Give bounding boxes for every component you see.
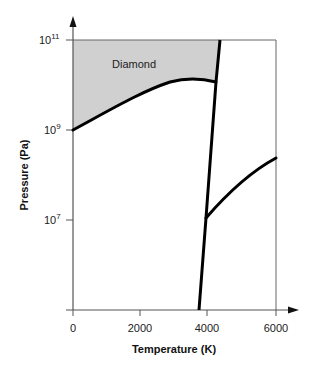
y-tick-label-11: 1011 — [39, 32, 60, 46]
x-axis-arrow-icon — [288, 307, 299, 314]
y-tick-label-9: 109 — [44, 122, 61, 136]
x-tick-label-6000: 6000 — [264, 322, 288, 334]
diamond-label: Diamond — [112, 58, 156, 70]
x-tick-label-2000: 2000 — [128, 322, 152, 334]
phase-diagram: 1011 109 107 0 2000 4000 6000 Temperatur… — [0, 0, 309, 367]
y-axis-arrow-icon — [70, 16, 77, 27]
x-tick-label-0: 0 — [70, 322, 76, 334]
x-axis-title: Temperature (K) — [132, 343, 216, 355]
y-axis-title: Pressure (Pa) — [18, 139, 30, 210]
y-tick-label-7: 107 — [44, 212, 61, 226]
x-tick-label-4000: 4000 — [195, 322, 219, 334]
liquid-vapor-boundary — [206, 158, 276, 218]
